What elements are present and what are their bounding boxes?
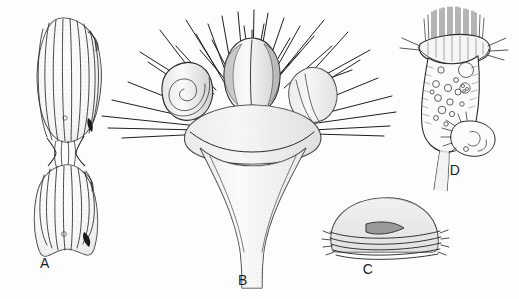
illustration-canvas: A xyxy=(0,0,519,299)
panel-d-epibiont xyxy=(451,121,495,156)
panel-c-label: C xyxy=(363,261,374,277)
panel-a-label: A xyxy=(40,255,50,271)
panel-b-label: B xyxy=(238,272,248,288)
panel-d-label: D xyxy=(450,162,461,178)
figure-plate: A xyxy=(0,0,519,299)
